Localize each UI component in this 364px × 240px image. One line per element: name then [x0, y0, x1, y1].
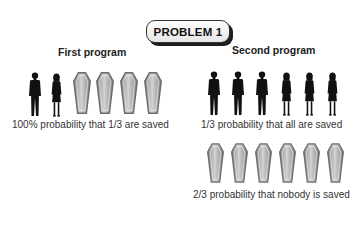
second-program-people-caption: 1/3 probability that all are saved [201, 119, 342, 130]
coffin-icon [303, 141, 320, 185]
woman-icon [327, 72, 338, 116]
first-program-caption: 100% probability that 1/3 are saved [12, 119, 169, 130]
coffin-icon [144, 72, 162, 114]
coffin-icon [231, 141, 248, 185]
woman-icon [281, 72, 292, 116]
coffin-icon [207, 141, 224, 185]
problem-badge: PROBLEM 1 [146, 20, 232, 45]
man-icon [208, 71, 220, 116]
first-program-heading: First program [58, 46, 126, 58]
coffin-icon [255, 141, 272, 185]
woman-icon [51, 73, 62, 117]
man-icon [232, 71, 244, 116]
coffin-icon [327, 141, 344, 185]
woman-icon [304, 72, 315, 116]
second-program-heading: Second program [232, 44, 315, 56]
man-icon [29, 72, 41, 117]
second-program-coffins-caption: 2/3 probability that nobody is saved [193, 189, 350, 200]
man-icon [256, 71, 268, 116]
coffin-icon [279, 141, 296, 185]
coffin-icon [73, 72, 91, 114]
problem-title: PROBLEM 1 [146, 20, 230, 43]
coffin-icon [120, 72, 138, 114]
coffin-icon [96, 72, 114, 114]
